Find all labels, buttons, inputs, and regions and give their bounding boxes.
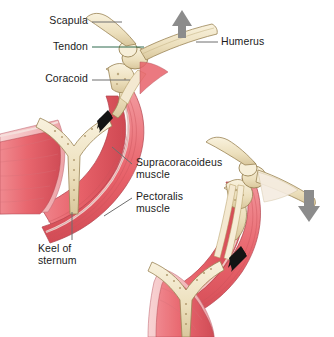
scapula-bone <box>86 13 136 46</box>
label-coracoid: Coracoid <box>0 73 88 85</box>
label-humerus: Humerus <box>221 36 264 48</box>
label-keel-of-sternum: Keel of sternum <box>38 243 77 266</box>
anatomy-diagram: Scapula Tendon Coracoid Humerus Supracor… <box>0 0 334 337</box>
deltoid-wedge <box>140 62 168 94</box>
label-pectoralis-muscle: Pectoralis muscle <box>136 191 183 214</box>
label-supracoracoideus-muscle: Supracoracoideus muscle <box>136 157 222 180</box>
label-scapula: Scapula <box>0 15 88 27</box>
label-tendon: Tendon <box>0 41 88 53</box>
tendon-fan-right <box>258 172 298 202</box>
